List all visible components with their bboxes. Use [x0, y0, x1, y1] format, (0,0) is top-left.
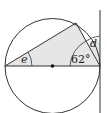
center-point — [51, 64, 55, 68]
angle-e-label: e — [21, 53, 28, 66]
angle-d-label: d — [90, 37, 97, 50]
angle-62-label: 62° — [71, 53, 91, 66]
circle-diagram: e d 62° — [0, 0, 107, 113]
diagram-canvas: e d 62° — [0, 0, 107, 113]
